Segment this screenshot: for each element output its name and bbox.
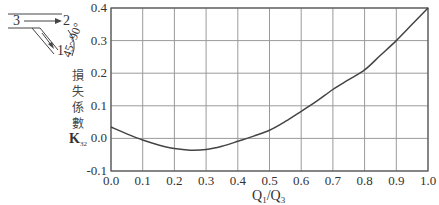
x-tick-label: 0.6 (293, 173, 310, 188)
y-tick-label: 0.0 (91, 130, 107, 145)
svg-text:K32: K32 (69, 131, 87, 148)
y-axis-ticks: 0.40.30.20.10.0-0.1 (86, 0, 107, 178)
x-tick-label: 1.0 (420, 173, 436, 188)
x-tick-label: 0.7 (325, 173, 342, 188)
x-tick-label: 0.5 (261, 173, 277, 188)
y-tick-label: 0.1 (91, 98, 107, 113)
y-tick-label: 0.2 (91, 65, 107, 80)
svg-text:損: 損 (72, 68, 84, 83)
x-tick-label: 0.2 (166, 173, 182, 188)
pipe-junction-diagram: 3 2 1 45~90° (8, 13, 85, 59)
x-tick-label: 0.3 (198, 173, 214, 188)
x-axis-label: Q1/Q3 (252, 188, 286, 205)
branch-label-3: 3 (13, 13, 20, 28)
x-tick-label: 0.0 (103, 173, 119, 188)
x-tick-label: 0.1 (135, 173, 151, 188)
y-tick-label: 0.4 (91, 0, 108, 15)
svg-text:係: 係 (72, 101, 84, 115)
x-tick-label: 0.8 (356, 173, 372, 188)
branch-label-2: 2 (63, 13, 70, 28)
grid-lines (111, 8, 428, 171)
x-axis-ticks: 0.00.10.20.30.40.50.60.70.80.91.0 (103, 173, 436, 188)
y-tick-label: 0.3 (91, 33, 107, 48)
x-tick-label: 0.4 (230, 173, 247, 188)
y-axis-label: 損 失 係 數 K32 (69, 68, 87, 148)
svg-text:失: 失 (72, 84, 84, 99)
loss-coefficient-chart: 0.40.30.20.10.0-0.1 0.00.10.20.30.40.50.… (0, 0, 439, 205)
svg-text:數: 數 (72, 117, 84, 131)
x-tick-label: 0.9 (388, 173, 404, 188)
